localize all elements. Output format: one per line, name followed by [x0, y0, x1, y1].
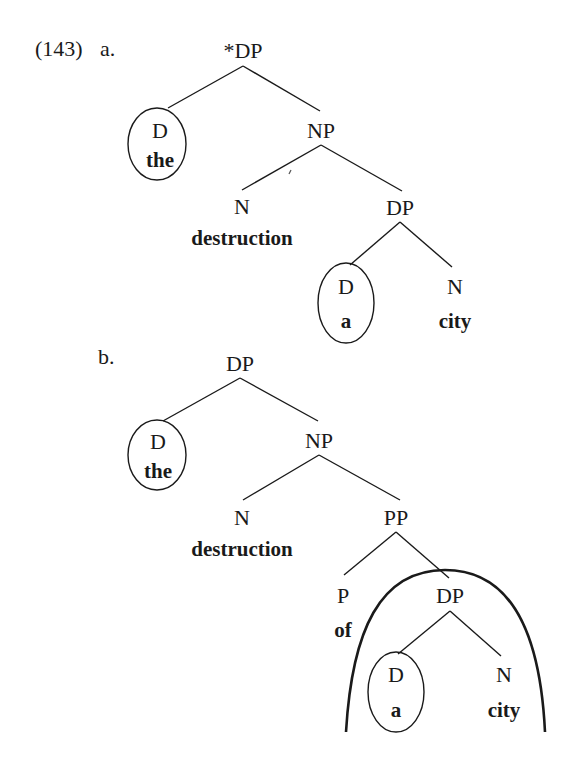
tree-b-n1-word: destruction — [191, 539, 293, 560]
tree-b-p-cat: P — [337, 585, 349, 607]
tree-a-n1-word: destruction — [191, 228, 293, 249]
tree-b-n1-cat: N — [234, 507, 250, 529]
tree-b-np: NP — [305, 430, 333, 452]
tree-a-dp2: DP — [386, 197, 414, 219]
tree-b-d2-cat: D — [388, 664, 404, 686]
tree-a-n1-cat: N — [234, 196, 250, 218]
example-number: (143) — [35, 38, 83, 60]
tree-a-root: *DP — [223, 40, 262, 62]
tree-b-n2-cat: N — [496, 664, 512, 686]
tree-b-dp2: DP — [436, 585, 464, 607]
tree-a-n2-word: city — [439, 311, 472, 332]
tree-b-d2-word: a — [391, 700, 402, 721]
tree-a-n2-cat: N — [447, 276, 463, 298]
tree-lines — [0, 0, 578, 759]
tree-b-d1-word: the — [144, 461, 172, 482]
tree-b-d1-cat: D — [150, 431, 166, 453]
tree-a-d2-word: a — [341, 311, 352, 332]
subexample-a-label: a. — [100, 38, 115, 60]
tree-b-root: DP — [226, 353, 254, 375]
subexample-b-label: b. — [98, 346, 115, 368]
tree-a-d1-cat: D — [152, 120, 168, 142]
tree-a-np: NP — [307, 120, 335, 142]
tree-a-d2-cat: D — [338, 276, 354, 298]
tree-a-d1-word: the — [146, 150, 174, 171]
tree-b-n2-word: city — [488, 700, 521, 721]
tree-b-pp: PP — [384, 507, 408, 529]
tree-b-p-word: of — [334, 620, 352, 641]
